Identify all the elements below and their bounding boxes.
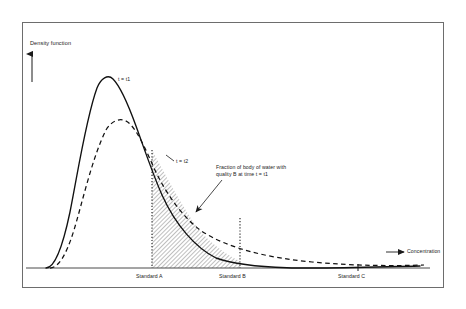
y-axis-label: Density function: [30, 40, 71, 47]
t2-label-leader: [166, 155, 174, 161]
annotation-leader-line: [196, 180, 222, 212]
figure-container: Density function Concentration t = t1 t …: [0, 0, 466, 309]
density-curve-t2: [50, 120, 424, 268]
curve-label-t1: t = t1: [118, 76, 130, 83]
threshold-label-standard-a: Standard A: [136, 273, 162, 280]
x-axis-label: Concentration: [407, 248, 440, 255]
curve-label-t2: t = t2: [176, 158, 188, 165]
threshold-label-standard-c: Standard C: [338, 273, 365, 280]
fraction-annotation-text: Fraction of body of water with quality B…: [216, 164, 292, 179]
threshold-label-standard-b: Standard B: [219, 273, 246, 280]
